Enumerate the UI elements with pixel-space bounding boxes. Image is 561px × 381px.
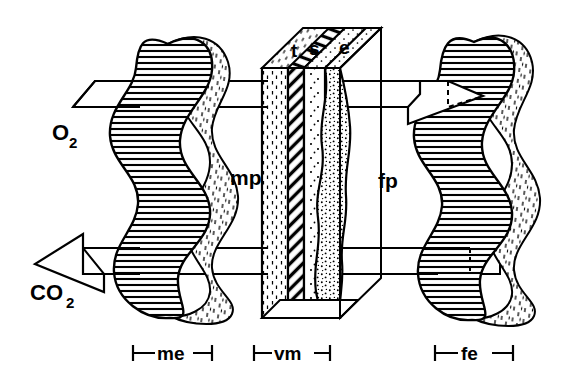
label-mp: mp [230, 166, 262, 189]
label-layer-e: e [339, 37, 350, 58]
dimension-vm-label: vm [274, 343, 301, 364]
membrane-layer-s [288, 68, 304, 318]
membrane-layer-t [262, 68, 288, 318]
label-layer-s: s [309, 38, 320, 59]
label-layer-t: t [291, 40, 298, 61]
dimension-fe-label: fe [461, 343, 478, 364]
label-co2-base: CO [30, 280, 63, 305]
label-fp: fp [378, 169, 398, 192]
dimension-me-label: me [157, 343, 184, 364]
gas-exchange-diagram: O 2 CO 2 mp fp t s e me vm fe [0, 0, 561, 381]
label-o2-sub: 2 [69, 134, 77, 151]
diagram-canvas: O 2 CO 2 mp fp t s e me vm fe [0, 0, 561, 381]
label-o2-base: O [52, 120, 69, 145]
label-co2-sub: 2 [66, 294, 74, 311]
